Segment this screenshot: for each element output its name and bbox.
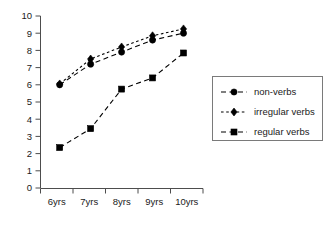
chart-figure: 012345678910 6yrs7yrs8yrs9yrs10yrs non-v…	[0, 0, 330, 231]
x-tick-label: 7yrs	[80, 196, 98, 207]
series-regular-verbs	[57, 50, 187, 151]
series-non-verbs	[57, 30, 187, 88]
square-marker	[88, 126, 94, 132]
square-marker	[231, 129, 237, 135]
y-tick-label: 9	[27, 28, 32, 39]
series-line	[60, 29, 184, 84]
legend: non-verbsirregular verbsregular verbs	[213, 77, 323, 141]
line-chart: 012345678910 6yrs7yrs8yrs9yrs10yrs non-v…	[0, 0, 330, 231]
square-marker	[119, 86, 125, 92]
series-line	[60, 53, 184, 148]
y-tick-label: 0	[27, 182, 32, 193]
y-tick-label: 10	[21, 10, 32, 21]
legend-label: irregular verbs	[254, 106, 315, 117]
x-tick-label: 6yrs	[48, 196, 66, 207]
y-tick-label: 2	[27, 148, 32, 159]
legend-label: regular verbs	[254, 126, 310, 137]
y-tick-label: 5	[27, 96, 32, 107]
y-tick-label: 8	[27, 45, 32, 56]
square-marker	[57, 145, 63, 151]
y-axis-ticks: 012345678910	[21, 10, 40, 193]
axes	[41, 16, 204, 189]
x-tick-label: 8yrs	[113, 196, 131, 207]
y-tick-label: 7	[27, 62, 32, 73]
series-line	[60, 33, 184, 85]
square-marker	[181, 50, 187, 56]
series-layer	[57, 25, 187, 151]
x-tick-label: 9yrs	[145, 196, 163, 207]
y-tick-label: 1	[27, 165, 32, 176]
circle-marker	[231, 89, 237, 95]
y-tick-label: 3	[27, 131, 32, 142]
y-tick-label: 4	[27, 114, 32, 125]
x-tick-label: 10yrs	[175, 196, 198, 207]
series-irregular-verbs	[57, 25, 187, 88]
y-tick-label: 6	[27, 79, 32, 90]
square-marker	[150, 75, 156, 81]
x-axis-ticks: 6yrs7yrs8yrs9yrs10yrs	[41, 189, 204, 208]
legend-label: non-verbs	[254, 86, 296, 97]
